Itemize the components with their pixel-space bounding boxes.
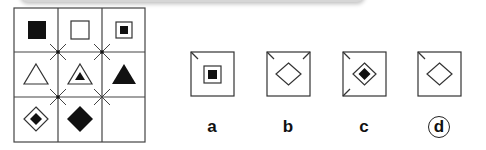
cell-3-2-black-diamond: [67, 106, 93, 132]
cell-2-1-white-triangle: [24, 64, 48, 84]
option-b-label[interactable]: b: [276, 117, 300, 137]
cell-1-3-nested-square: [116, 22, 132, 38]
option-d-label-circled[interactable]: d: [428, 116, 450, 138]
cell-2-3-black-triangle: [112, 64, 136, 84]
option-c-label[interactable]: c: [352, 117, 376, 137]
option-a-figure[interactable]: [191, 52, 234, 96]
option-a-label[interactable]: a: [200, 117, 224, 137]
option-c-figure[interactable]: [343, 52, 386, 96]
puzzle-figure: [0, 0, 486, 150]
cell-2-2-nested-triangle: [68, 64, 92, 84]
cell-3-1-nested-diamond: [24, 107, 48, 131]
cell-1-1-black-square: [28, 21, 46, 39]
option-b-figure[interactable]: [267, 52, 310, 96]
option-d-figure[interactable]: [418, 52, 461, 96]
cell-1-2-white-square: [71, 21, 89, 39]
